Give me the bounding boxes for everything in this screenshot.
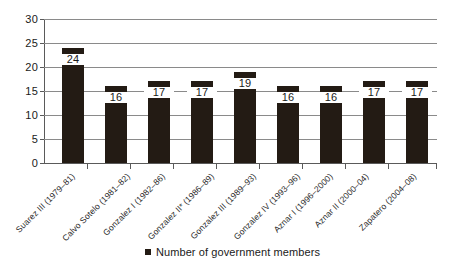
gridline-25: [44, 43, 437, 44]
bar-value-calvo-sotelo: 16: [101, 92, 131, 103]
x-label-aznar-i[interactable]: Aznar I (1996–2000): [272, 172, 335, 235]
bar-value-zapatero: 17: [402, 87, 432, 98]
bar-value-aznar-ii: 17: [359, 87, 389, 98]
bar-value-aznar-i: 16: [316, 92, 346, 103]
y-tick-label-5: 5: [4, 134, 38, 145]
x-tick-mark-4: [216, 164, 217, 169]
x-tick-mark-8: [388, 164, 389, 169]
legend-label: Number of government members: [156, 246, 320, 258]
x-tick-mark-3: [173, 164, 174, 169]
y-tick-label-0: 0: [4, 158, 38, 169]
x-tick-mark-6: [302, 164, 303, 169]
chart-legend[interactable]: Number of government members: [0, 246, 465, 258]
bar-value-gonzalez-iii: 19: [230, 78, 260, 89]
bar-suarez-iii[interactable]: [62, 48, 84, 163]
x-tick-mark-9: [436, 164, 437, 169]
bar-value-suarez-iii: 24: [58, 54, 88, 65]
gridline-30: [44, 19, 437, 20]
plot-area: 24 16 17 17 19 16 16 17 17: [44, 19, 437, 163]
x-tick-mark-1: [87, 164, 88, 169]
bar-value-gonzalez-iv: 16: [273, 92, 303, 103]
y-tick-label-15: 15: [4, 86, 38, 97]
bar-value-gonzalez-ii: 17: [187, 87, 217, 98]
legend-square-marker-icon: [145, 249, 151, 255]
y-tick-label-30: 30: [4, 14, 38, 25]
bar-chart: 30 25 20 15 10 5 0 24 16 17 17 1: [0, 0, 465, 271]
bar-value-gonzalez-i: 17: [144, 87, 174, 98]
x-tick-mark-5: [259, 164, 260, 169]
x-tick-mark-7: [345, 164, 346, 169]
y-tick-label-10: 10: [4, 110, 38, 121]
x-tick-mark-2: [130, 164, 131, 169]
y-tick-label-25: 25: [4, 38, 38, 49]
y-tick-label-20: 20: [4, 62, 38, 73]
gridline-20: [44, 67, 437, 68]
gridline-0: [44, 163, 437, 164]
